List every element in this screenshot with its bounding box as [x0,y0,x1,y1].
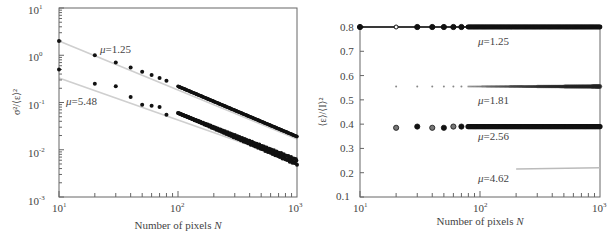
annotation-mu-4-62: μ=4.62 [477,172,509,184]
y-tick-label: 10-2 [28,146,45,159]
y-tick-label: 0.8 [340,21,354,33]
x-tick-label: 102 [170,201,185,214]
y-tick-label: 10-1 [28,98,45,111]
y-tick-label: 0.6 [340,70,354,82]
y-tick-label: 0.2 [340,167,354,179]
y-axis-label: ⟨ε⟩/⟨I⟩² [317,98,328,127]
x-tick-label: 101 [52,201,67,214]
x-tick-label: 101 [353,201,368,214]
x-axis-ticks [360,191,595,197]
annotation-mu-1-25: μ=1.25 [477,35,509,47]
y-tick-label: 10-3 [28,194,45,207]
y-tick-label: 0.4 [340,118,354,130]
right-chart-svg: 0.8 0.7 0.6 0.5 0.4 0.3 0.2 0.1 101 102 … [310,0,616,239]
x-axis-label: Number of pixels N [134,219,222,231]
y-axis-ticks [59,8,64,197]
x-tick-label: 103 [592,201,607,214]
left-chart: 101 100 10-1 10-2 10-3 101 102 103 Numbe… [0,0,310,239]
annotation-mu-2-56: μ=2.56 [477,130,509,142]
y-tick-label: 0.3 [340,142,354,154]
x-axis-label: Number of pixels N [436,215,524,227]
right-chart: 0.8 0.7 0.6 0.5 0.4 0.3 0.2 0.1 101 102 … [310,0,616,239]
x-tick-label: 103 [288,201,303,214]
y-axis-ticks [360,27,364,197]
annotation-mu-5-48: μ=5.48 [65,95,97,107]
x-tick-label: 102 [473,201,488,214]
y-tick-label: 0.5 [340,94,354,106]
y-axis-label: σ²/⟨ε⟩² [11,89,22,115]
y-tick-label: 100 [28,50,43,63]
x-axis-ticks [59,191,292,197]
y-tick-label: 0.1 [336,190,350,202]
annotation-mu-1-81: μ=1.81 [477,94,509,106]
annotation-mu-1-25: μ=1.25 [99,43,131,55]
y-tick-label: 101 [28,3,43,16]
y-tick-label: 0.7 [340,45,354,57]
left-chart-svg: 101 100 10-1 10-2 10-3 101 102 103 Numbe… [0,0,310,239]
